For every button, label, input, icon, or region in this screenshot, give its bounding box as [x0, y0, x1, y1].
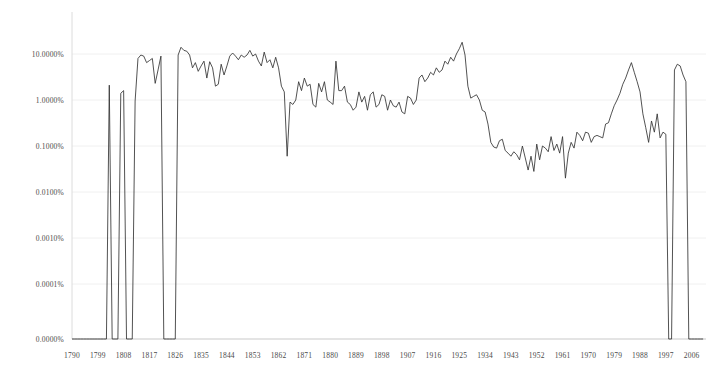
x-axis-tick-label: 1799: [90, 351, 106, 360]
grid-lines: [72, 54, 706, 284]
x-axis-tick-label: 1979: [606, 351, 622, 360]
x-axis-tick-label: 1907: [400, 351, 416, 360]
x-axis-tick-label: 1970: [580, 351, 596, 360]
x-axis-tick-label: 1925: [451, 351, 467, 360]
chart-container: 10.0000%1.0000%0.1000%0.0100%0.0010%0.00…: [0, 0, 712, 378]
y-axis-tick-label: 0.0010%: [8, 234, 64, 243]
x-axis-tick-label: 1943: [503, 351, 519, 360]
x-axis-tick-label: 1934: [477, 351, 493, 360]
x-axis-tick-label: 1853: [245, 351, 261, 360]
x-axis-tick-label: 1898: [374, 351, 390, 360]
x-axis-tick-label: 1889: [348, 351, 364, 360]
y-axis-tick-label: 1.0000%: [8, 96, 64, 105]
x-axis-tick-label: 1952: [529, 351, 545, 360]
x-axis-tick-label: 1997: [658, 351, 674, 360]
x-axis-tick-label: 1871: [296, 351, 312, 360]
y-axis-tick-label: 0.0100%: [8, 188, 64, 197]
x-axis-tick-label: 1826: [167, 351, 183, 360]
x-axis-tick-label: 1835: [193, 351, 209, 360]
x-axis-tick-label: 1790: [64, 351, 80, 360]
x-axis-tick-label: 1988: [632, 351, 648, 360]
x-axis-tick-label: 1808: [116, 351, 132, 360]
x-axis-tick-label: 1916: [426, 351, 442, 360]
line-chart-plot: [0, 0, 712, 378]
y-axis-tick-label: 10.0000%: [8, 50, 64, 59]
data-series-line: [72, 42, 703, 339]
x-axis-tick-label: 1961: [555, 351, 571, 360]
x-axis-tick-label: 1844: [219, 351, 235, 360]
y-axis-tick-label: 0.0001%: [8, 280, 64, 289]
y-axis-tick-label: 0.1000%: [8, 142, 64, 151]
x-axis-tick-label: 2006: [684, 351, 700, 360]
x-axis-tick-label: 1817: [142, 351, 158, 360]
x-axis-tick-label: 1880: [322, 351, 338, 360]
y-axis-tick-label: 0.0000%: [8, 335, 64, 344]
x-axis-tick-label: 1862: [271, 351, 287, 360]
